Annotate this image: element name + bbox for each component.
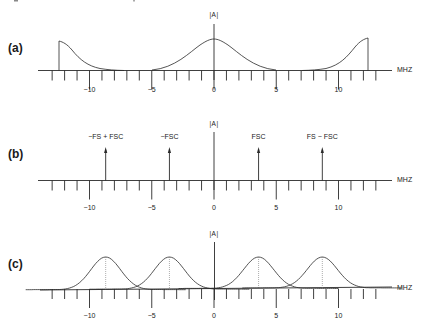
- tick-label: 5: [274, 204, 278, 211]
- arrow-head-icon: [257, 147, 260, 153]
- panel-a-label: (a): [8, 41, 23, 55]
- tick-label: 5: [274, 312, 278, 319]
- tick-label: −10: [84, 204, 96, 211]
- panel-a-left-edge-spectrum: [59, 41, 124, 71]
- tick-label: 0: [212, 204, 216, 211]
- panel-a-unit-label: MHZ: [397, 66, 413, 73]
- tick-label: 5: [274, 86, 278, 93]
- panel-c-unit-label: MHZ: [397, 284, 413, 291]
- panel-a-tick-labels: −10−50510: [84, 86, 343, 93]
- arrow-head-icon: [168, 147, 171, 153]
- component-arrow: −FSC: [160, 133, 178, 181]
- tick-label: 10: [335, 312, 343, 319]
- panel-c-amplitude-label: |A|: [209, 230, 218, 238]
- panel-a: (a) |A| −10−50510 MHZ: [8, 11, 413, 93]
- component-label: FSC: [252, 133, 266, 140]
- tick-label: 0: [212, 312, 216, 319]
- tick-label: 0: [212, 86, 216, 93]
- tick-label: −5: [148, 204, 156, 211]
- panel-a-amplitude-label: |A|: [209, 11, 218, 19]
- panel-c-ticks: [52, 289, 376, 308]
- tick-label: −5: [148, 312, 156, 319]
- component-arrow: FS − FSC: [307, 133, 338, 181]
- panel-b-tick-labels: −10−50510: [84, 204, 343, 211]
- tick-label: −10: [84, 312, 96, 319]
- arrow-head-icon: [321, 147, 324, 153]
- panel-c-label: (c): [8, 257, 23, 271]
- tick-label: 10: [335, 204, 343, 211]
- panel-c: (c) |A| −10−50510 MHZ: [8, 230, 413, 319]
- component-arrow: FSC: [252, 133, 266, 181]
- tick-label: −5: [148, 86, 156, 93]
- tick-label: −10: [84, 86, 96, 93]
- panel-c-tick-labels: −10−50510: [84, 312, 343, 319]
- panel-a-right-edge-spectrum: [302, 38, 368, 71]
- tick-label: 10: [335, 86, 343, 93]
- component-label: FS − FSC: [307, 133, 338, 140]
- component-label: −FS + FSC: [88, 133, 123, 140]
- panel-b-label: (b): [8, 147, 23, 161]
- frequency-spectrum-figure: (a) |A| −10−50510 MHZ (b) |A| −10−50510 …: [0, 0, 425, 333]
- arrow-head-icon: [104, 147, 107, 153]
- panel-c-spectra: [26, 257, 403, 290]
- component-arrow: −FS + FSC: [88, 133, 123, 181]
- panel-b: (b) |A| −10−50510 MHZ −FS + FSC −FSC FSC…: [8, 120, 413, 211]
- component-label: −FSC: [160, 133, 178, 140]
- clipped-top-text: [14, 0, 135, 2]
- panel-b-amplitude-label: |A|: [209, 120, 218, 128]
- panel-b-ticks: [52, 181, 376, 200]
- panel-b-unit-label: MHZ: [397, 176, 413, 183]
